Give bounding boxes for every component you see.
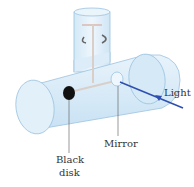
- horizontal-tube: [12, 52, 180, 137]
- mirror: [111, 72, 123, 86]
- black-disk-label-line1: Black: [56, 154, 85, 165]
- mirror-label: Mirror: [104, 138, 138, 149]
- radiometer-diagram: Light Mirror Black disk: [0, 0, 194, 187]
- black-disk: [63, 86, 75, 100]
- light-label: Light: [164, 87, 191, 98]
- black-disk-label-line2: disk: [59, 167, 81, 178]
